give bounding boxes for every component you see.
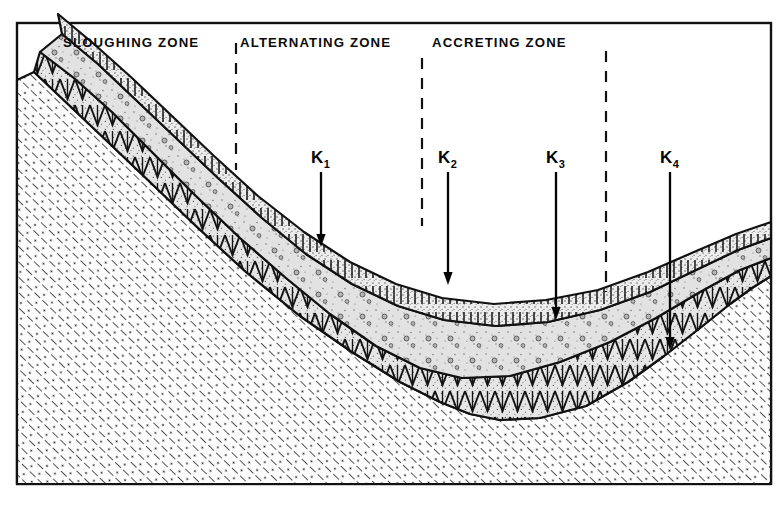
annotation-subscript-k1: 1 [324,158,330,170]
zone-label-sloughing: SLOUGHING ZONE [63,35,199,50]
cross-section-svg: SLOUGHING ZONEALTERNATING ZONEACCRETING … [0,0,784,507]
annotation-subscript-k3: 3 [559,158,565,170]
annotation-subscript-k4: 4 [673,158,680,170]
zone-label-group: SLOUGHING ZONEALTERNATING ZONEACCRETING … [63,35,567,50]
figure-root: SLOUGHING ZONEALTERNATING ZONEACCRETING … [0,0,784,507]
annotation-subscript-k2: 2 [451,158,457,170]
zone-label-alternating: ALTERNATING ZONE [240,35,391,50]
zone-label-accreting: ACCRETING ZONE [432,35,567,50]
